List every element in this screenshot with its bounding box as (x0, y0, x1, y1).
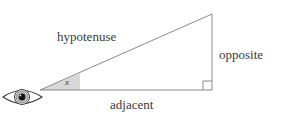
trigonometry-diagram: hypotenuse opposite adjacent x (0, 0, 281, 124)
adjacent-label: adjacent (110, 98, 153, 111)
opposite-label: opposite (219, 48, 263, 61)
hypotenuse-label: hypotenuse (57, 30, 116, 43)
angle-label: x (65, 78, 69, 87)
eye-icon (3, 90, 42, 105)
right-angle-marker-icon (203, 81, 212, 90)
